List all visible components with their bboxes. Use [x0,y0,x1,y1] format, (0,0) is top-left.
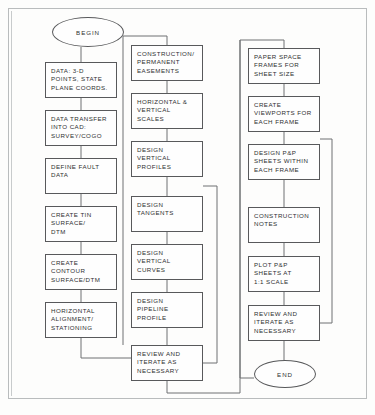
flowchart-page: BEGIN DATA: 3-D POINTS, STATE PLANE COOR… [0,0,375,415]
node-data-points[interactable]: DATA: 3-D POINTS, STATE PLANE COORDS. [45,62,117,98]
node-begin-label: BEGIN [76,29,100,36]
node-end[interactable]: END [254,360,316,388]
node-begin[interactable]: BEGIN [52,17,124,47]
node-plot-pp-sheets[interactable]: PLOT P&P SHEETS AT 1:1 SCALE [248,256,320,292]
node-construction-easements[interactable]: CONSTRUCTION/ PERMANENT EASEMENTS [131,45,203,81]
node-design-pp-sheets[interactable]: DESIGN P&P SHEETS WITHIN EACH FRAME [248,144,320,180]
node-review-iterate-mid[interactable]: REVIEW AND ITERATE AS NECESSARY [131,345,203,381]
node-horizontal-vertical-scales[interactable]: HORIZONTAL & VERTICAL SCALES [131,93,203,129]
node-design-pipeline-profile[interactable]: DESIGN PIPELINE PROFILE [131,292,203,328]
node-data-transfer[interactable]: DATA TRANSFER INTO CAD: SURVEY/COGO [45,110,117,146]
node-create-viewports[interactable]: CREATE VIEWPORTS FOR EACH FRAME [248,96,320,132]
node-define-fault[interactable]: DEFINE FAULT DATA [45,158,117,194]
node-construction-notes[interactable]: CONSTRUCTION NOTES [248,207,320,243]
node-create-tin[interactable]: CREATE TIN SURFACE/ DTM [45,206,117,242]
node-design-vertical-profiles[interactable]: DESIGN VERTICAL PROFILES [131,141,203,177]
node-design-tangents[interactable]: DESIGN TANGENTS [131,196,203,232]
node-end-label: END [277,371,293,378]
node-review-iterate-right[interactable]: REVIEW AND ITERATE AS NECESSARY [248,305,320,341]
node-create-contour[interactable]: CREATE CONTOUR SURFACE/DTM [45,254,117,290]
node-horizontal-alignment[interactable]: HORIZONTAL ALIGNMENT/ STATIONING [45,302,117,338]
node-paper-space-frames[interactable]: PAPER SPACE FRAMES FOR SHEET SIZE [248,48,320,84]
node-design-vertical-curves[interactable]: DESIGN VERTICAL CURVES [131,244,203,280]
